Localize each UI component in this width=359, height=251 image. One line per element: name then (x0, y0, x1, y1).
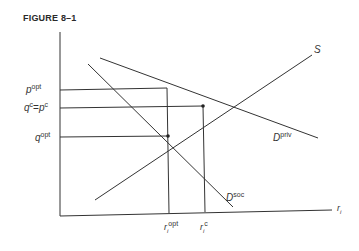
y-tick-qc-pc: qc=pc (24, 101, 48, 113)
social-demand-curve (88, 64, 233, 207)
private-demand-curve (100, 58, 318, 138)
social-optimum-point (166, 134, 170, 138)
x-tick-r-opt: riopt (164, 220, 178, 234)
y-tick-q-opt: qopt (35, 131, 50, 143)
q-opt-guide (60, 136, 168, 137)
chart-plot: popt qc=pc qopt S Dpriv Dsoc riopt ric r… (0, 0, 359, 251)
x-axis (60, 210, 332, 216)
y-tick-p-opt: popt (25, 83, 41, 95)
x-tick-r-c: ric (200, 220, 208, 234)
supply-label: S (314, 44, 321, 55)
r-c-guide (203, 106, 205, 212)
private-demand-label: Dpriv (273, 131, 292, 143)
private-equilibrium-point (201, 104, 205, 108)
social-demand-label: Dsoc (226, 191, 245, 203)
x-axis-label: ri (337, 203, 342, 215)
